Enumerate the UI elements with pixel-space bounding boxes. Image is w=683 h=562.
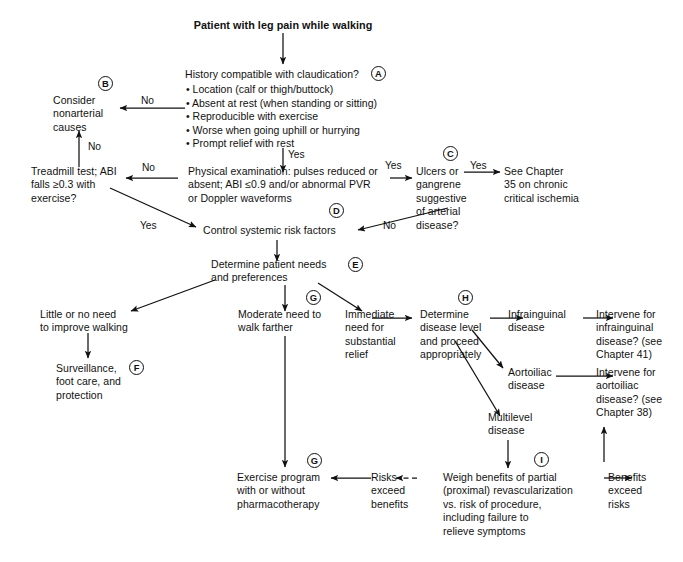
node-history-question: History compatible with claudication? xyxy=(185,68,435,81)
history-bullet-0: • Location (calf or thigh/buttock) xyxy=(186,83,486,97)
edge-needs-to-little xyxy=(131,280,215,311)
node-intervene-aortoiliac: Intervene for aortoiliac disease? (see C… xyxy=(596,366,683,420)
node-surveillance-foot-care: Surveillance, foot care, and protection xyxy=(56,362,161,402)
node-moderate-need: Moderate need to walk farther xyxy=(238,308,353,335)
node-benefits-exceed-risks: Benefits exceed risks xyxy=(608,471,668,511)
node-infrainguinal-disease: Infrainguinal disease xyxy=(508,308,588,335)
node-risks-exceed-benefits: Risks exceed benefits xyxy=(371,471,426,511)
key-marker-a: A xyxy=(371,66,386,81)
node-consider-nonarterial: Consider nonarterial causes xyxy=(53,94,143,134)
key-marker-g-upper: G xyxy=(306,290,321,305)
node-aortoiliac-disease: Aortoiliac disease xyxy=(508,366,583,393)
node-start: Patient with leg pain while walking xyxy=(173,19,393,32)
node-determine-patient-needs: Determine patient needs and preferences xyxy=(211,258,351,285)
node-immediate-need: Immediate need for substantial relief xyxy=(345,308,415,362)
history-bullet-1: • Absent at rest (when standing or sitti… xyxy=(186,97,486,111)
edge-label-history-yes: Yes xyxy=(288,149,305,161)
key-marker-h: H xyxy=(458,290,473,305)
node-ulcers-gangrene: Ulcers or gangrene suggestive of arteria… xyxy=(416,165,478,232)
edge-label-ulcers-no: No xyxy=(383,220,396,232)
node-weigh-benefits: Weigh benefits of partial (proximal) rev… xyxy=(443,471,603,538)
node-treadmill-test: Treadmill test; ABI falls ≥0.3 with exer… xyxy=(31,165,141,205)
edge-label-exam-yes: Yes xyxy=(385,160,402,172)
node-intervene-infrainguinal: Intervene for infrainguinal disease? (se… xyxy=(596,308,683,362)
flowchart-canvas: Patient with leg pain while walking Hist… xyxy=(0,0,683,562)
key-marker-e: E xyxy=(348,257,363,272)
key-marker-c: C xyxy=(443,146,458,161)
node-determine-disease-level: Determine disease level and proceed appr… xyxy=(420,308,498,362)
edge-label-exam-no: No xyxy=(142,162,155,174)
edge-label-ulcers-yes: Yes xyxy=(470,160,487,172)
key-marker-f: F xyxy=(129,360,144,375)
history-bullet-4: • Prompt relief with rest xyxy=(186,137,486,151)
key-marker-i: I xyxy=(534,452,549,467)
node-history-bullets: • Location (calf or thigh/buttock) • Abs… xyxy=(186,83,486,151)
edge-label-treadmill-no: No xyxy=(88,141,101,153)
node-control-systemic-risk-factors: Control systemic risk factors xyxy=(203,224,363,237)
node-see-chapter-35: See Chapter 35 on chronic critical ische… xyxy=(504,165,614,205)
node-exercise-program: Exercise program with or without pharmac… xyxy=(237,471,337,511)
node-physical-examination: Physical examination: pulses reduced or … xyxy=(188,165,393,205)
history-bullet-2: • Reproducible with exercise xyxy=(186,110,486,124)
key-marker-g-lower: G xyxy=(307,453,322,468)
edge-label-history-no: No xyxy=(141,95,154,107)
history-bullet-3: • Worse when going uphill or hurrying xyxy=(186,124,486,138)
edge-label-treadmill-yes: Yes xyxy=(140,220,157,232)
key-marker-b: B xyxy=(98,76,113,91)
node-multilevel-disease: Multilevel disease xyxy=(488,411,558,438)
edge-needs-to-immediate xyxy=(318,283,362,311)
node-little-or-no-need: Little or no need to improve walking xyxy=(40,308,160,335)
key-marker-d: D xyxy=(329,203,344,218)
